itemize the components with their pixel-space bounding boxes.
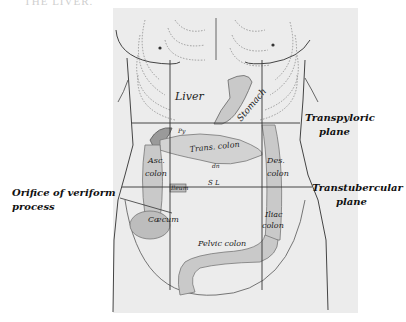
pelvic-colon-label: Pelvic colon <box>197 239 246 248</box>
sl-label: S L <box>208 179 220 187</box>
py-label: Py <box>177 127 186 135</box>
des-colon-label-2: colon <box>267 169 289 178</box>
right-nipple <box>271 43 274 46</box>
caecum-label: Cæcum <box>148 215 179 224</box>
orifice-label: Orifice of veriform process <box>12 186 116 214</box>
asc-colon-label-2: colon <box>145 169 167 178</box>
liver-label: Liver <box>174 90 205 103</box>
left-nipple <box>158 46 161 49</box>
iliac-colon-label-1: Iliac <box>264 210 283 219</box>
iliac-colon-label-2: colon <box>262 221 284 230</box>
dn-label: dn <box>212 162 220 169</box>
transpyloric-plane-label: Transpyloric plane <box>305 111 375 139</box>
des-colon-label-1: Des. <box>266 156 285 165</box>
anatomy-diagram: THE LIVER. <box>0 0 406 322</box>
asc-colon-label-1: Asc. <box>147 156 165 165</box>
abdomen-illustration: Liver Stomach Trans. colon Asc. colon De… <box>0 0 406 322</box>
ileum-label: Ileum <box>170 184 189 191</box>
transtubercular-plane-label: Transtubercular plane <box>312 181 403 209</box>
